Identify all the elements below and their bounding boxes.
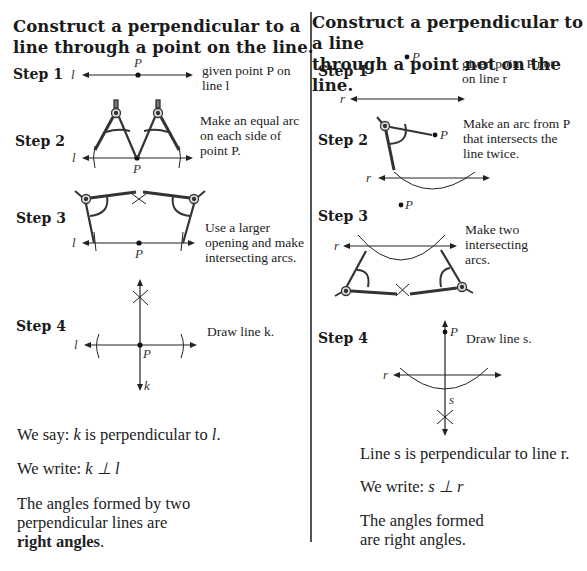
text: are right angles. <box>360 530 484 549</box>
right-step1-label: Step 1 <box>318 63 368 79</box>
text: The angles formed <box>360 511 484 530</box>
svg-text:r: r <box>334 238 340 253</box>
right-angles-statement: The angles formed are right angles. <box>360 511 484 549</box>
right-step3-desc: Make two intersecting arcs. <box>465 222 528 267</box>
desc-line: line twice. <box>463 146 570 161</box>
svg-text:r: r <box>366 170 372 185</box>
compass-icon <box>377 117 432 170</box>
desc-line: that intersects the <box>463 131 570 146</box>
desc-line: given point P not <box>462 56 554 71</box>
right-line-statement: Line s is perpendicular to line r. <box>360 444 569 463</box>
right-step1-desc: given point P not on line r <box>462 56 554 86</box>
desc-line: Make an arc from P <box>463 116 570 131</box>
svg-text:r: r <box>383 367 389 382</box>
svg-text:P: P <box>439 127 448 142</box>
svg-text:P: P <box>404 197 413 212</box>
text: We write: <box>360 477 428 496</box>
right-step2-label: Step 2 <box>318 132 368 148</box>
right-step2-desc: Make an arc from P that intersects the l… <box>463 116 570 161</box>
right-step4-desc: Draw line s. <box>466 331 532 346</box>
svg-text:s: s <box>449 392 454 407</box>
right-step3-label: Step 3 <box>318 208 368 224</box>
desc-line: arcs. <box>465 252 528 267</box>
desc-line: Make two <box>465 222 528 237</box>
desc-line: on line r <box>462 71 554 86</box>
desc-line: intersecting <box>465 237 528 252</box>
right-write-statement: We write: s ⊥ r <box>360 477 463 496</box>
perpendicular-expression: s ⊥ r <box>428 477 463 496</box>
svg-text:P: P <box>449 324 458 339</box>
svg-text:r: r <box>340 91 346 106</box>
right-step4-label: Step 4 <box>318 330 368 346</box>
svg-text:P: P <box>411 49 420 64</box>
compass-icon <box>410 250 473 294</box>
